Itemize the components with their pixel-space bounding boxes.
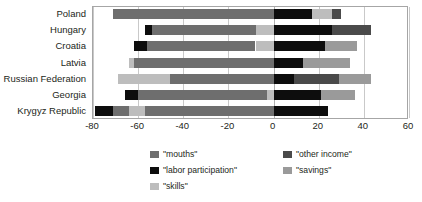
plot-area-wrapper: PolandHungaryCroatiaLatviaRussian Federa… xyxy=(0,0,422,138)
x-axis-tick-label: 20 xyxy=(298,120,338,132)
bar-segment xyxy=(134,41,148,51)
chart-legend: "mouths""other income""labor participati… xyxy=(150,148,412,196)
bar-segment xyxy=(125,90,139,100)
bar-segment xyxy=(118,74,170,84)
y-axis-label: Hungary xyxy=(50,22,86,38)
bar-segment xyxy=(147,41,255,51)
legend-label: "savings" xyxy=(296,164,331,177)
x-axis-tick-label: 0 xyxy=(253,120,293,132)
bar-segment xyxy=(256,25,274,35)
x-axis-tick-label: -40 xyxy=(162,120,202,132)
bar-segment xyxy=(303,58,350,68)
bar-row xyxy=(93,39,407,55)
bar-row xyxy=(93,88,407,104)
bar-row xyxy=(93,7,407,23)
chart-container: PolandHungaryCroatiaLatviaRussian Federa… xyxy=(0,0,422,202)
legend-swatch-icon xyxy=(150,183,159,190)
bar-segment xyxy=(339,74,371,84)
bar-segment xyxy=(325,41,357,51)
legend-label: "labor participation" xyxy=(163,164,237,177)
legend-label: "other income" xyxy=(296,148,352,161)
x-axis-tick-label: 60 xyxy=(388,120,422,132)
bar-segment xyxy=(113,106,129,116)
bar-segment xyxy=(274,74,294,84)
bar-segment xyxy=(267,90,274,100)
y-axis-label: Croatia xyxy=(55,38,86,54)
bar-row xyxy=(93,23,407,39)
bar-row xyxy=(93,104,407,120)
legend-swatch-icon xyxy=(283,167,292,174)
y-axis-label: Krygyz Republic xyxy=(17,103,86,119)
y-axis-label: Latvia xyxy=(61,55,86,71)
bar-segment xyxy=(274,90,321,100)
x-axis-tick-labels: -80-60-40-200204060 xyxy=(92,120,408,134)
bar-segment xyxy=(294,74,339,84)
bar-segment xyxy=(129,106,145,116)
plot-area xyxy=(92,6,408,119)
gridline xyxy=(409,7,410,118)
bar-segment xyxy=(113,9,273,19)
bar-segment xyxy=(274,106,328,116)
bar-segment xyxy=(138,90,267,100)
bar-segment xyxy=(134,58,274,68)
bar-segment xyxy=(145,25,152,35)
bar-segment xyxy=(274,41,326,51)
legend-swatch-icon xyxy=(150,151,159,158)
x-axis-tick-label: 40 xyxy=(343,120,383,132)
y-axis-label: Georgia xyxy=(52,87,86,103)
bar-segment xyxy=(332,25,370,35)
bar-segment xyxy=(170,74,274,84)
legend-swatch-icon xyxy=(283,151,292,158)
bar-segment xyxy=(274,58,303,68)
bar-segment xyxy=(274,25,333,35)
bar-segment xyxy=(256,41,274,51)
bar-row xyxy=(93,56,407,72)
bar-segment xyxy=(274,9,312,19)
legend-label: "skills" xyxy=(163,180,188,193)
y-axis-label: Poland xyxy=(56,6,86,22)
bar-row xyxy=(93,72,407,88)
y-axis-label: Russian Federation xyxy=(4,71,86,87)
bar-segment xyxy=(152,25,256,35)
bar-segment xyxy=(95,106,113,116)
bar-segment xyxy=(332,9,341,19)
bar-segment xyxy=(312,9,332,19)
x-axis-tick-label: -80 xyxy=(72,120,112,132)
y-axis-category-labels: PolandHungaryCroatiaLatviaRussian Federa… xyxy=(0,6,89,119)
x-axis-tick-label: -20 xyxy=(207,120,247,132)
bar-segment xyxy=(145,106,274,116)
x-axis-tick-label: -60 xyxy=(117,120,157,132)
legend-label: "mouths" xyxy=(163,148,197,161)
legend-swatch-icon xyxy=(150,167,159,174)
bar-segment xyxy=(321,90,355,100)
